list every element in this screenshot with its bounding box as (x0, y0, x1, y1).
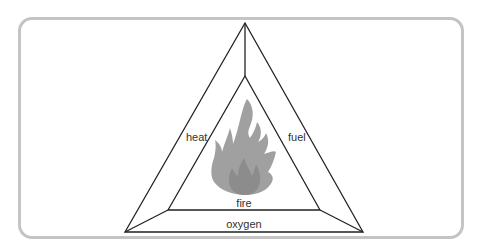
label-oxygen: oxygen (226, 218, 261, 230)
fire-triangle-diagram: heat fuel fire oxygen (0, 0, 479, 251)
label-heat: heat (186, 131, 207, 143)
label-fuel: fuel (288, 131, 306, 143)
label-fire: fire (236, 197, 251, 209)
